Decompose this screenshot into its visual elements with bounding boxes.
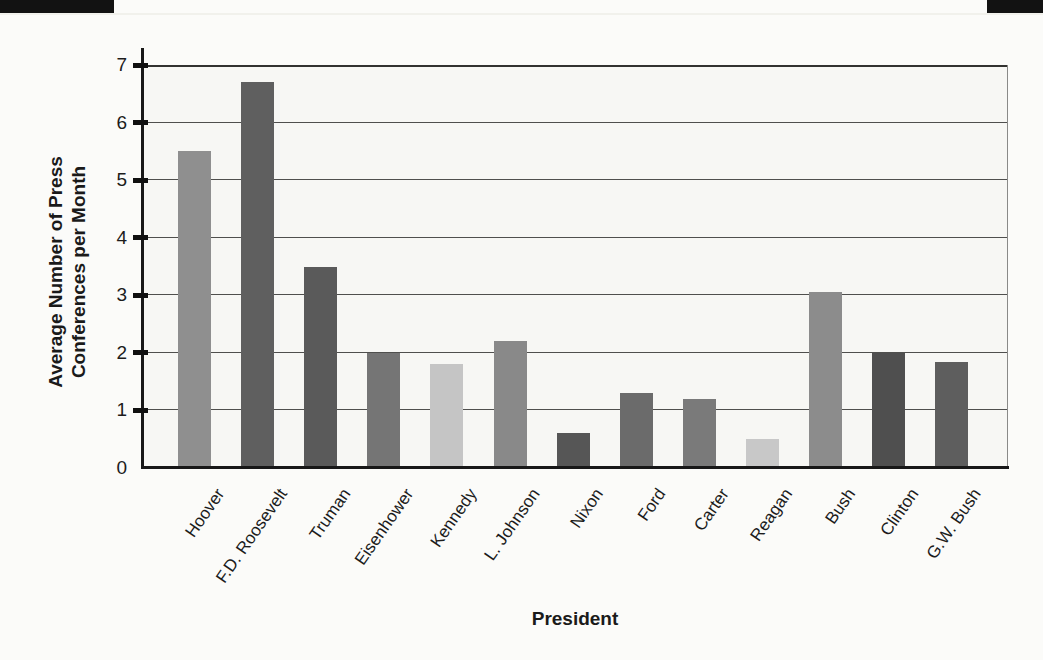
y-axis-title-line1: Average Number of Press bbox=[45, 156, 66, 388]
y-tick-2 bbox=[133, 350, 148, 355]
y-tick-label-4: 4 bbox=[92, 227, 127, 249]
bar-hoover bbox=[178, 151, 211, 468]
x-label-ford: Ford bbox=[634, 485, 670, 525]
bar-truman bbox=[304, 267, 337, 469]
y-tick-label-3: 3 bbox=[92, 284, 127, 306]
y-axis-line bbox=[141, 48, 144, 469]
y-tick-label-0: 0 bbox=[92, 457, 127, 479]
x-label-reagan: Reagan bbox=[746, 485, 797, 545]
y-tick-5 bbox=[133, 178, 148, 183]
bar-carter bbox=[683, 399, 716, 468]
bar-l-johnson bbox=[494, 341, 527, 468]
plot-area bbox=[143, 65, 1008, 468]
y-tick-4 bbox=[133, 235, 148, 240]
scan-edge-line bbox=[0, 13, 1043, 15]
x-label-clinton: Clinton bbox=[876, 485, 923, 540]
x-label-kennedy: Kennedy bbox=[426, 485, 481, 551]
bar-ford bbox=[620, 393, 653, 468]
x-label-truman: Truman bbox=[305, 485, 355, 544]
y-tick-7 bbox=[133, 63, 148, 68]
y-axis-title: Average Number of Press Conferences per … bbox=[44, 156, 90, 388]
x-label-eisenhower: Eisenhower bbox=[351, 485, 418, 569]
bar-reagan bbox=[746, 439, 779, 468]
y-tick-label-5: 5 bbox=[92, 169, 127, 191]
scan-artifact-top-right bbox=[987, 0, 1043, 13]
bar-bush bbox=[809, 292, 842, 468]
x-label-g-w-bush: G.W. Bush bbox=[923, 485, 986, 563]
x-label-hoover: Hoover bbox=[181, 485, 229, 541]
y-tick-label-7: 7 bbox=[92, 54, 127, 76]
x-label-carter: Carter bbox=[690, 485, 733, 535]
x-axis-title: President bbox=[143, 608, 1007, 630]
y-tick-1 bbox=[133, 408, 148, 413]
x-label-nixon: Nixon bbox=[566, 485, 607, 532]
x-label-l-johnson: L. Johnson bbox=[480, 485, 544, 565]
x-axis-line bbox=[141, 466, 1009, 469]
y-tick-3 bbox=[133, 293, 148, 298]
y-tick-label-2: 2 bbox=[92, 342, 127, 364]
bar-f-d-roosevelt bbox=[241, 82, 274, 468]
bar-kennedy bbox=[430, 364, 463, 468]
bar-eisenhower bbox=[367, 353, 400, 468]
y-tick-6 bbox=[133, 120, 148, 125]
scan-artifact-top-left bbox=[0, 0, 114, 13]
y-axis-title-line2: Conferences per Month bbox=[68, 166, 89, 378]
bar-g-w-bush bbox=[935, 362, 968, 469]
y-tick-label-1: 1 bbox=[92, 399, 127, 421]
y-tick-label-6: 6 bbox=[92, 112, 127, 134]
scanned-page: Average Number of Press Conferences per … bbox=[0, 0, 1043, 660]
gridline-7 bbox=[143, 65, 1007, 67]
x-label-bush: Bush bbox=[821, 485, 860, 528]
bar-nixon bbox=[557, 433, 590, 468]
bar-clinton bbox=[872, 353, 905, 468]
